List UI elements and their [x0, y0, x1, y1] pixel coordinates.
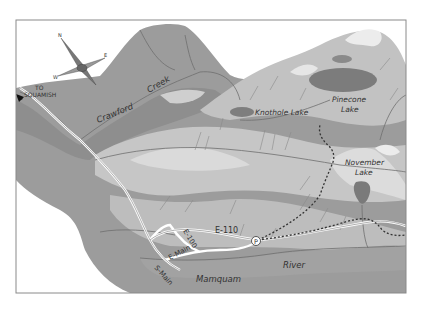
label-knothole-lake: Knothole Lake: [255, 108, 309, 117]
label-pinecone-1: Pinecone: [332, 95, 366, 104]
label-november-1: November: [345, 158, 385, 167]
label-e110: E-110: [215, 226, 238, 235]
label-river: River: [283, 260, 306, 270]
label-pinecone-2: Lake: [341, 105, 359, 114]
label-squamish: SQUAMISH: [24, 91, 56, 98]
label-mamquam: Mamquam: [196, 274, 241, 284]
map: P TO SQUAMISH N E W Crawford Creek Knoth…: [0, 0, 422, 309]
compass-e: E: [104, 52, 107, 58]
pinecone-upper-lake: [332, 55, 352, 63]
compass-n: N: [58, 32, 62, 38]
parking-icon: P: [252, 237, 261, 246]
pinecone-lake: [309, 68, 377, 92]
label-to: TO: [34, 84, 44, 91]
svg-text:P: P: [254, 238, 258, 246]
label-november-2: Lake: [355, 168, 373, 177]
compass-w: W: [53, 74, 58, 80]
knothole-lake: [230, 107, 254, 117]
